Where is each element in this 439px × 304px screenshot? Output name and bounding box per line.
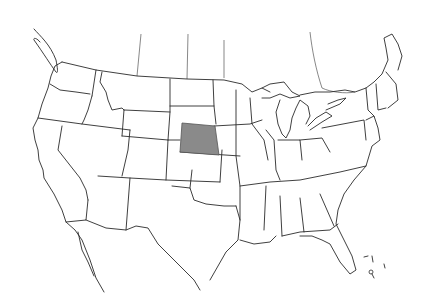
canada-us-border	[62, 34, 402, 95]
coastline-west	[33, 29, 104, 292]
caribbean-islands	[364, 256, 385, 278]
state-borders	[38, 70, 398, 290]
great-lakes	[262, 82, 346, 138]
highlighted-state	[180, 123, 219, 155]
us-outline-map	[0, 0, 439, 304]
